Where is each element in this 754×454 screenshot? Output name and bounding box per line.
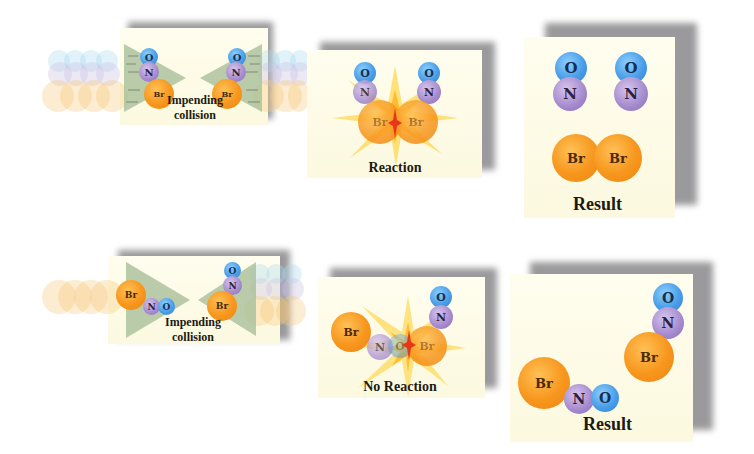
nitrogen-atom: N [553, 77, 587, 111]
bromine-atom: Br [407, 326, 447, 366]
bromine-atom: Br [552, 134, 600, 182]
caption-impending-line1: Impending [160, 93, 230, 108]
bromine-atom: Br [116, 280, 146, 310]
bromine-atom: Br [594, 134, 642, 182]
bromine-atom: Br [394, 100, 438, 144]
caption-impending-line2: collision [160, 108, 230, 123]
nitrogen-atom: N [564, 384, 594, 414]
caption-no-reaction: No Reaction [345, 379, 455, 395]
nitrogen-atom: N [614, 77, 648, 111]
caption-impending-line1: Impending [158, 315, 228, 330]
bromine-atom: Br [518, 357, 570, 409]
bromine-atom: Br [624, 332, 674, 382]
caption-result: Result [565, 414, 650, 435]
panel-3-result [524, 37, 675, 218]
caption-result: Result [555, 194, 640, 215]
nitrogen-atom: N [429, 305, 453, 329]
oxygen-atom: O [591, 384, 619, 412]
bromine-atom: Br [331, 312, 371, 352]
oxygen-atom: O [158, 298, 175, 315]
caption-impending-line2: collision [158, 330, 228, 345]
caption-reaction: Reaction [350, 160, 440, 176]
